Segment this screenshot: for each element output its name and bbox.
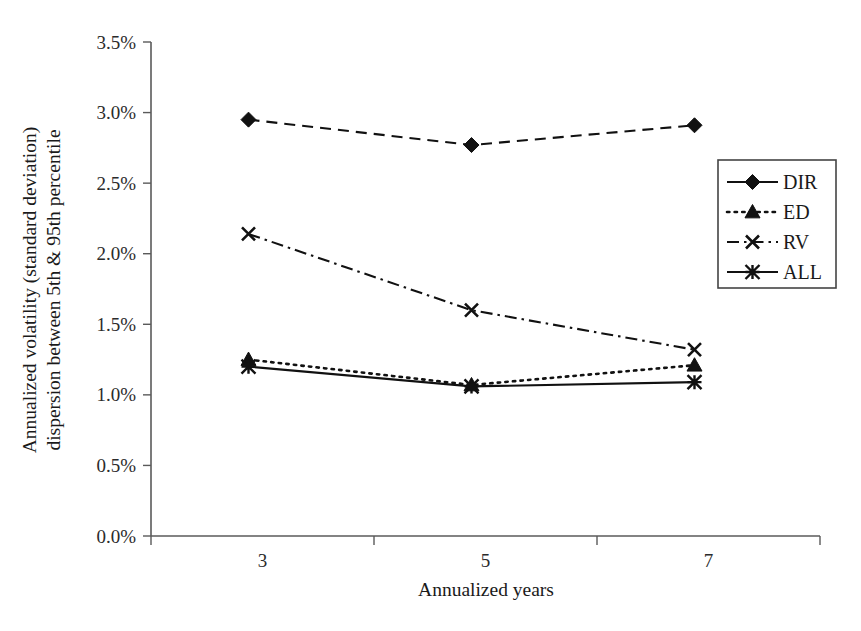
data-point-marker-all xyxy=(242,360,256,374)
y-axis-title-line1: Annualized volatility (standard deviatio… xyxy=(19,127,41,454)
y-axis-tick-label: 2.5% xyxy=(96,173,136,194)
chart-container: 0.0%0.5%1.0%1.5%2.0%2.5%3.0%3.5% 357 DIR… xyxy=(0,0,861,631)
x-axis-title: Annualized years xyxy=(418,579,554,600)
series-dir xyxy=(241,112,702,152)
y-axis-tick-label: 1.5% xyxy=(96,314,136,335)
y-axis-tick-label: 0.0% xyxy=(96,526,136,547)
x-axis: 357 xyxy=(151,536,820,571)
y-axis-tick-label: 2.0% xyxy=(96,243,136,264)
x-axis-tick-label: 3 xyxy=(258,550,268,571)
y-axis-title-line2: dispersion between 5th & 95th percentile xyxy=(43,129,64,450)
x-axis-tick-label: 5 xyxy=(481,550,491,571)
x-axis-ticks xyxy=(151,536,820,545)
y-axis-tick-label: 1.0% xyxy=(96,384,136,405)
legend-label: ALL xyxy=(783,261,822,283)
legend-label: DIR xyxy=(783,171,818,193)
data-point-marker-rv xyxy=(242,227,255,240)
data-series-group xyxy=(241,112,702,393)
series-rv xyxy=(242,227,701,356)
chart-legend: DIREDRVALL xyxy=(718,160,836,288)
data-point-marker-rv xyxy=(688,343,701,356)
y-axis-tick-label: 3.5% xyxy=(96,32,136,53)
data-point-marker-dir xyxy=(241,112,256,127)
x-axis-tick-labels: 357 xyxy=(258,550,714,571)
data-point-marker-all xyxy=(688,375,702,389)
x-axis-tick-label: 7 xyxy=(704,550,714,571)
y-axis-tick-label: 0.5% xyxy=(96,455,136,476)
line-chart-figure: 0.0%0.5%1.0%1.5%2.0%2.5%3.0%3.5% 357 DIR… xyxy=(0,0,861,631)
series-line-rv xyxy=(249,234,695,350)
legend-label: RV xyxy=(783,231,810,253)
y-axis-tick-label: 3.0% xyxy=(96,102,136,123)
y-axis-ticks xyxy=(143,42,151,536)
data-point-marker-dir xyxy=(464,138,479,153)
data-point-marker-dir xyxy=(687,118,702,133)
y-axis-tick-labels: 0.0%0.5%1.0%1.5%2.0%2.5%3.0%3.5% xyxy=(96,32,136,547)
y-axis: 0.0%0.5%1.0%1.5%2.0%2.5%3.0%3.5% xyxy=(96,32,151,547)
data-point-marker-rv xyxy=(465,304,478,317)
legend-label: ED xyxy=(783,201,810,223)
data-point-marker-all xyxy=(465,379,479,393)
legend-marker-sample xyxy=(746,265,760,279)
